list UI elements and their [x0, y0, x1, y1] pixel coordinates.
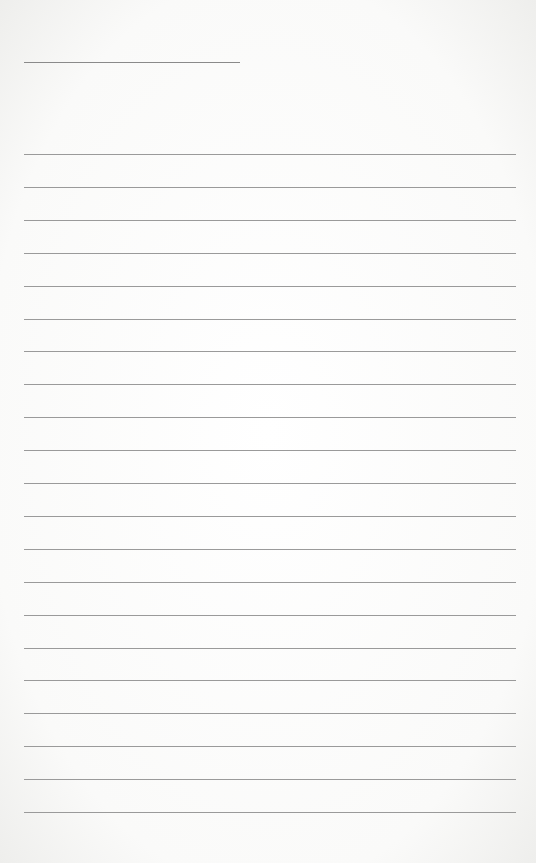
title-line: [24, 62, 240, 63]
ruled-line: [24, 351, 516, 352]
ruled-line: [24, 615, 516, 616]
ruled-line: [24, 220, 516, 221]
ruled-line: [24, 648, 516, 649]
ruled-line: [24, 549, 516, 550]
ruled-line: [24, 154, 516, 155]
ruled-line: [24, 812, 516, 813]
ruled-line: [24, 746, 516, 747]
ruled-line: [24, 450, 516, 451]
ruled-line: [24, 713, 516, 714]
ruled-line: [24, 187, 516, 188]
ruled-line: [24, 779, 516, 780]
ruled-line: [24, 680, 516, 681]
ruled-line: [24, 417, 516, 418]
ruled-line: [24, 384, 516, 385]
lined-paper-page: [0, 0, 536, 863]
ruled-line: [24, 516, 516, 517]
ruled-line: [24, 582, 516, 583]
ruled-line: [24, 319, 516, 320]
ruled-line: [24, 286, 516, 287]
ruled-line: [24, 253, 516, 254]
ruled-line: [24, 483, 516, 484]
